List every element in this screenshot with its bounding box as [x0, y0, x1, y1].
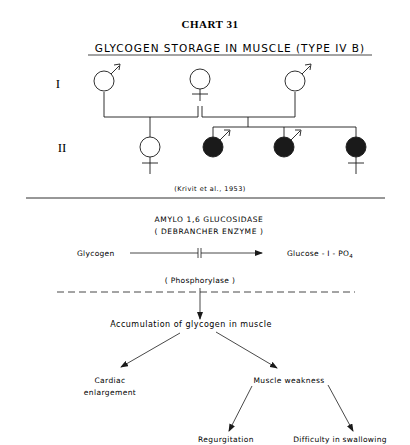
- second-enzyme-label: ( Phosphorylase ): [165, 276, 235, 285]
- pedigree-female-affected-icon: [346, 137, 366, 174]
- subeffect-swallowing: Difficulty in swallowing: [293, 435, 387, 444]
- enzyme-name: AMYLO 1,6 GLUCOSIDASE: [155, 215, 264, 224]
- pedigree-female-unaffected-icon: [190, 69, 210, 101]
- effect-weakness: Muscle weakness: [253, 376, 324, 385]
- consequence-label: Accumulation of glycogen in muscle: [110, 320, 272, 329]
- chart-label: CHART 31: [182, 18, 239, 30]
- product-label: Glucose - I - PO4: [287, 249, 353, 259]
- enzyme-alias: ( DEBRANCHER ENZYME ): [154, 227, 263, 236]
- arrow-to-swallowing: [328, 385, 353, 431]
- diagram-canvas: CHART 31 GLYCOGEN STORAGE IN MUSCLE (TYP…: [0, 0, 410, 445]
- substrate-label: Glycogen: [77, 249, 115, 258]
- generation-label-1: I: [56, 76, 60, 91]
- effect-cardiac-line1: Cardiac: [94, 376, 125, 385]
- pedigree-male-affected-icon: [274, 130, 301, 157]
- effect-cardiac-line2: enlargement: [84, 388, 136, 397]
- pedigree-female-unaffected-icon: [140, 137, 160, 174]
- pedigree-male-unaffected-icon: [94, 64, 120, 91]
- citation: (Krivit et al., 1953): [174, 185, 246, 193]
- subeffect-regurgitation: Regurgitation: [198, 435, 254, 444]
- arrow-to-regurgitation: [229, 386, 252, 431]
- arrow-to-cardiac: [121, 333, 180, 367]
- reaction-arrow: [130, 248, 262, 258]
- page-title: GLYCOGEN STORAGE IN MUSCLE (TYPE IV B): [95, 42, 365, 54]
- pedigree-male-affected-icon: [203, 130, 230, 157]
- generation-label-2: II: [58, 140, 67, 155]
- pedigree-male-unaffected-icon: [285, 64, 311, 91]
- arrow-to-weakness: [216, 332, 277, 368]
